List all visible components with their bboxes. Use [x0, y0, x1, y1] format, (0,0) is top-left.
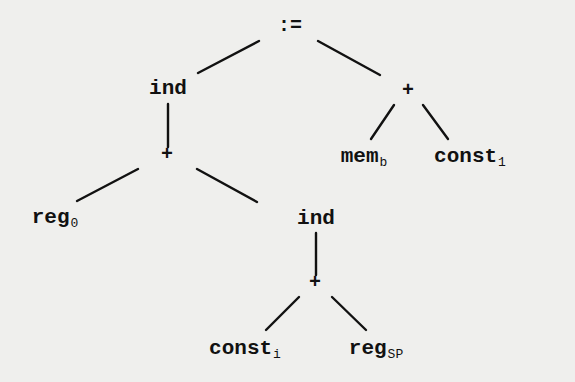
edge-plus-mem	[371, 105, 394, 139]
node-label: ind	[149, 77, 187, 100]
node-label: reg	[349, 337, 387, 360]
node-reg-sp: regSP	[349, 338, 403, 361]
node-plus-right: +	[402, 81, 414, 101]
expression-tree-diagram: := ind + memb const1 + reg0 ind + consti…	[0, 0, 575, 382]
node-subscript: 1	[498, 155, 506, 170]
node-label: const	[434, 145, 497, 168]
node-const-1: const1	[434, 146, 506, 169]
node-ind-lower: ind	[297, 208, 335, 229]
node-label: +	[402, 79, 414, 102]
node-label: :=	[278, 14, 302, 37]
node-label: const	[209, 337, 272, 360]
edge-pluslower-regsp	[332, 297, 366, 330]
node-subscript: i	[273, 347, 281, 362]
node-ind-upper: ind	[149, 78, 187, 99]
node-label: ind	[297, 207, 335, 230]
node-subscript: b	[380, 155, 388, 170]
node-label: mem	[341, 145, 379, 168]
edge-plus-ind	[197, 169, 257, 202]
node-plus-left: +	[161, 145, 173, 165]
node-assign: :=	[278, 16, 302, 36]
node-label: reg	[32, 206, 70, 229]
edge-plus-reg0	[77, 169, 138, 201]
node-subscript: 0	[71, 216, 79, 231]
edge-root-plus	[318, 41, 380, 75]
node-label: +	[309, 271, 321, 294]
node-mem-b: memb	[341, 146, 388, 169]
node-const-i: consti	[209, 338, 281, 361]
edge-root-ind	[198, 41, 259, 73]
edge-pluslower-consti	[266, 297, 299, 330]
node-reg-0: reg0	[32, 207, 79, 230]
node-label: +	[161, 143, 173, 166]
tree-edges	[0, 0, 575, 382]
edge-plus-const1	[423, 105, 448, 139]
node-subscript: SP	[388, 347, 404, 362]
node-plus-lower: +	[309, 273, 321, 293]
